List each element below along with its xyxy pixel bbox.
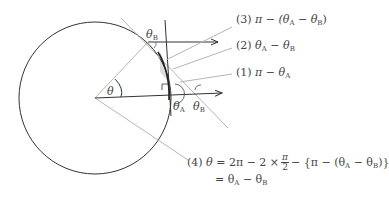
theta-a-label: θA	[173, 100, 185, 114]
equation-4-line1: (4) θ = 2π − 2 ×π2− {π − (θA − θB)}	[187, 153, 389, 172]
callout-2: (2) θA − θB	[236, 39, 295, 53]
leader-3	[166, 27, 232, 60]
callout-3: (3) π − (θA − θB)	[236, 13, 327, 27]
leader-1	[180, 74, 232, 82]
theta-label: θ	[107, 85, 114, 98]
theta-b-top-arc	[154, 42, 156, 48]
leader-2	[173, 48, 232, 69]
right-angle-mark	[162, 84, 168, 90]
callout-1: (1) π − θA	[236, 66, 290, 80]
theta-b-right-label: θB	[193, 100, 205, 114]
dark-ray-lower	[95, 93, 222, 98]
theta-b-arc	[195, 85, 201, 90]
equation-4-line2: = θA − θB	[215, 173, 267, 187]
theta-arc	[115, 79, 122, 97]
fraction: π2	[281, 153, 289, 172]
theta-b-top-label: θB	[146, 28, 158, 42]
